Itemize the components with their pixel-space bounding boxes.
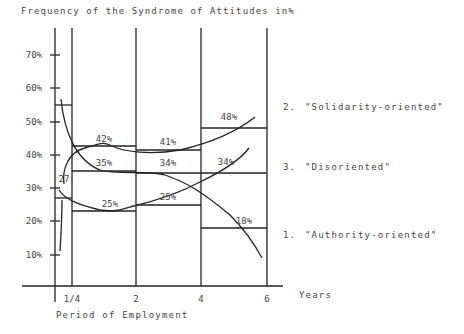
y-label-30: 30% (26, 183, 43, 193)
value-label-42: 42% (96, 134, 113, 144)
legend-number-2: 2. (283, 102, 296, 112)
legend-solidarity: "Solidarity-oriented" (305, 102, 444, 112)
legend-number-1: 1. (283, 230, 296, 240)
y-label-10: 10% (26, 250, 43, 260)
value-label-34b: 34% (218, 157, 235, 167)
y-label-70: 70% (26, 50, 43, 60)
value-label-35: 35% (96, 158, 113, 168)
value-label-25b: 25% (160, 192, 177, 202)
value-label-34a: 34% (160, 158, 177, 168)
y-label-40: 40% (26, 150, 43, 160)
value-label-41: 41% (160, 137, 177, 147)
y-label-50: 50% (26, 117, 43, 127)
value-label-27: 27 (59, 174, 70, 184)
x-label-quarter: 1/4 (64, 294, 80, 304)
legend-authority: "Authority-oriented" (305, 230, 437, 240)
legend-number-3: 3. (283, 162, 296, 172)
y-label-20: 20% (26, 216, 43, 226)
chart-canvas: 70% 60% 50% 40% 30% 20% 10% 1/4 2 4 6 Ye… (0, 0, 464, 334)
x-axis-title: Period of Employment (56, 310, 188, 320)
x-unit-label: Years (299, 290, 332, 300)
curve-disoriented-early (60, 200, 62, 251)
y-label-60: 60% (26, 83, 43, 93)
x-label-4: 4 (198, 294, 203, 304)
legend: 2. "Solidarity-oriented" 3. "Disoriented… (283, 102, 444, 240)
value-label-18: 18% (236, 216, 253, 226)
x-label-6: 6 (264, 294, 269, 304)
x-label-2: 2 (133, 294, 138, 304)
value-label-25: 25% (102, 199, 119, 209)
value-label-48: 48% (221, 112, 238, 122)
legend-disoriented: "Disoriented" (305, 162, 391, 172)
curve-authority (61, 99, 262, 258)
